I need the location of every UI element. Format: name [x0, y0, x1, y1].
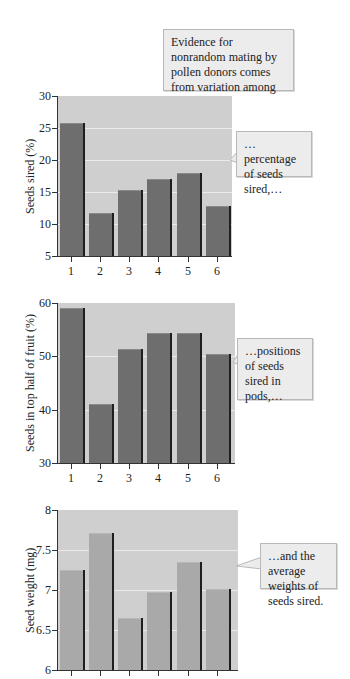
bar-donor-4 [147, 333, 170, 463]
x-tick [71, 257, 72, 262]
x-axis [57, 670, 238, 671]
y-tick-label: 30 [27, 90, 51, 102]
bar-donor-1 [60, 570, 83, 670]
x-tick-label: 6 [210, 265, 224, 277]
chart-3-annotation-callout: …and the average weights of seeds sired. [260, 543, 337, 589]
x-axis [57, 463, 235, 464]
x-tick [158, 257, 159, 262]
bar-donor-2 [89, 213, 112, 256]
x-tick [100, 464, 101, 469]
y-tick-label: 30 [27, 457, 51, 469]
bar-donor-6 [206, 206, 229, 256]
bar-donor-6 [206, 354, 229, 463]
bar-donor-1 [60, 123, 83, 256]
x-tick-label: 4 [151, 472, 165, 484]
y-tick-label: 5 [27, 250, 51, 262]
y-tick [52, 128, 57, 129]
bar-donor-2 [89, 533, 112, 670]
chart-3-plot-area [57, 510, 238, 670]
y-tick-label: 6 [27, 664, 51, 676]
x-tick [100, 671, 101, 676]
y-tick-label: 8 [27, 504, 51, 516]
y-tick [52, 510, 57, 511]
y-tick [52, 356, 57, 357]
x-tick [158, 464, 159, 469]
x-tick-label: 1 [64, 472, 78, 484]
chart-1-annotation-callout: …percentage of seeds sired,… [236, 131, 312, 177]
bar-donor-1 [60, 308, 83, 463]
y-tick [52, 410, 57, 411]
y-tick [52, 192, 57, 193]
bar-donor-6 [206, 589, 229, 670]
y-axis [57, 510, 58, 670]
chart-1-plot-area [57, 96, 232, 256]
gridline [57, 160, 232, 161]
x-tick [217, 257, 218, 262]
x-tick-label: 4 [151, 265, 165, 277]
x-tick [129, 257, 130, 262]
x-tick-label: 2 [93, 472, 107, 484]
x-tick-label: 5 [181, 472, 195, 484]
x-tick-label: 3 [122, 472, 136, 484]
x-tick-label: 1 [64, 265, 78, 277]
y-axis-title: Seeds sired (%) [23, 138, 38, 213]
y-tick [52, 96, 57, 97]
x-tick-label: 6 [210, 472, 224, 484]
y-axis-title: Seeds in top half of fruit (%) [23, 314, 38, 452]
y-tick [52, 463, 57, 464]
callout-pointer-icon [236, 551, 262, 581]
y-tick [52, 670, 57, 671]
bar-donor-4 [147, 592, 170, 670]
bar-donor-5 [177, 562, 200, 670]
y-tick-label: 25 [27, 122, 51, 134]
y-tick [52, 160, 57, 161]
y-tick [52, 630, 57, 631]
y-tick [52, 256, 57, 257]
x-tick [188, 671, 189, 676]
gridline [57, 128, 232, 129]
bar-donor-3 [118, 349, 141, 463]
x-tick [71, 464, 72, 469]
bar-donor-5 [177, 333, 200, 463]
bar-donor-3 [118, 190, 141, 256]
y-tick-label: 60 [27, 297, 51, 309]
x-tick [129, 464, 130, 469]
y-tick [52, 224, 57, 225]
chart-2-annotation-callout: …positions of seeds sired in pods,… [237, 338, 313, 400]
chart-2-plot-area [57, 303, 235, 463]
x-tick-label: 2 [93, 265, 107, 277]
intro-callout: Evidence for nonrandom mating by pollen … [163, 29, 294, 91]
bar-donor-2 [89, 404, 112, 463]
y-tick [52, 550, 57, 551]
x-tick-label: 3 [122, 265, 136, 277]
y-tick-label: 10 [27, 218, 51, 230]
y-tick [52, 303, 57, 304]
y-axis [57, 303, 58, 463]
x-tick [188, 464, 189, 469]
x-tick [217, 671, 218, 676]
x-tick-label: 5 [181, 265, 195, 277]
bar-donor-3 [118, 618, 141, 670]
x-tick [71, 671, 72, 676]
x-tick [158, 671, 159, 676]
x-tick [188, 257, 189, 262]
x-tick [217, 464, 218, 469]
bar-donor-5 [177, 173, 200, 256]
bar-donor-4 [147, 179, 170, 256]
gridline [57, 192, 232, 193]
y-axis [57, 96, 58, 256]
y-tick [52, 590, 57, 591]
x-tick [100, 257, 101, 262]
y-axis-title: Seed weight (mg) [23, 547, 38, 632]
x-axis [57, 256, 232, 257]
gridline [57, 550, 238, 551]
x-tick [129, 671, 130, 676]
